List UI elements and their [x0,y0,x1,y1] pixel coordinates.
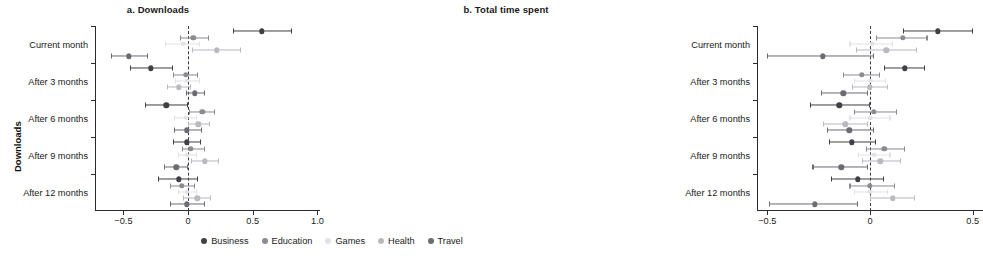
y-axis-category-label: After 12 months [23,188,88,198]
panel-total-time-spent: b. Total time spent −0.500.5Current mont… [332,0,664,263]
confidence-interval-cap [926,35,927,40]
point-estimate-dot [882,146,887,151]
confidence-interval-cap [849,41,850,46]
x-axis-tick-label: 0 [186,216,191,226]
confidence-interval-cap [904,146,905,151]
confidence-interval-cap [197,72,198,77]
confidence-interval-cap [194,183,195,188]
point-estimate-dot [841,91,846,96]
confidence-interval-cap [170,202,171,207]
confidence-interval-cap [889,152,890,157]
confidence-interval-cap [214,109,215,114]
legend-item-business[interactable]: Business [201,236,248,246]
confidence-interval-cap [291,29,292,34]
y-axis-tick [753,137,757,138]
point-estimate-dot [185,79,190,84]
x-axis-tick [973,211,974,215]
x-axis-tick-label: −0.5 [758,216,776,226]
x-axis-tick-label: −0.5 [114,216,132,226]
legend-item-travel[interactable]: Travel [428,236,463,246]
confidence-interval-cap [196,152,197,157]
point-estimate-dot [191,35,196,40]
point-estimate-dot [183,116,188,121]
confidence-interval-cap [887,85,888,90]
y-axis-tick [753,174,757,175]
y-axis-tick [753,100,757,101]
point-estimate-dot [884,47,889,52]
legend-item-education[interactable]: Education [262,236,313,246]
confidence-interval-cap [208,35,209,40]
confidence-interval-cap [209,122,210,127]
legend-swatch-icon [201,238,207,244]
point-estimate-dot [878,158,883,163]
point-estimate-dot [174,165,179,170]
panel-a-y-axis [95,26,96,211]
confidence-interval-cap [180,35,181,40]
x-axis-tick-label: 0.5 [966,216,979,226]
confidence-interval-cap [876,35,877,40]
y-axis-tick [91,137,95,138]
point-estimate-dot [148,66,153,71]
y-axis-category-label: After 6 months [28,114,88,124]
confidence-interval-cap [852,85,853,90]
legend-label: Education [272,236,313,246]
point-estimate-dot [200,109,205,114]
confidence-interval-cap [170,183,171,188]
confidence-interval-cap [218,159,219,164]
legend-label: Business [211,236,248,246]
confidence-interval-cap [173,140,174,145]
confidence-interval-cap [233,29,234,34]
confidence-interval-cap [178,152,179,157]
panel-a-x-axis [95,210,320,211]
point-estimate-dot [820,54,825,59]
legend-item-health[interactable]: Health [378,236,415,246]
point-estimate-dot [868,79,873,84]
confidence-interval-cap [196,115,197,120]
confidence-interval-cap [903,29,904,34]
point-estimate-dot [185,190,190,195]
confidence-interval-cap [831,177,832,182]
point-estimate-dot [867,84,872,89]
confidence-interval-cap [812,165,813,170]
panel-a-y-axis-title: Downloads [12,121,23,172]
point-estimate-dot [259,29,264,34]
point-estimate-dot [192,91,197,96]
legend-swatch-icon [428,238,434,244]
legend-item-games[interactable]: Games [325,236,365,246]
confidence-interval-cap [210,196,211,201]
confidence-interval-cap [854,189,855,194]
confidence-interval-cap [883,177,884,182]
confidence-interval-cap [164,165,165,170]
confidence-interval-cap [174,115,175,120]
confidence-interval-cap [916,48,917,53]
confidence-interval-cap [167,85,168,90]
confidence-interval-cap [197,177,198,182]
x-axis-tick [188,211,189,215]
y-axis-category-label: After 3 months [690,77,750,87]
confidence-interval-cap [849,115,850,120]
x-axis-tick [123,211,124,215]
confidence-interval-cap [867,122,868,127]
x-axis-tick-label: 0.5 [246,216,259,226]
confidence-interval-cap [201,128,202,133]
y-axis-tick [753,63,757,64]
confidence-interval-cap [190,85,191,90]
y-axis-category-label: After 6 months [690,114,750,124]
point-estimate-dot [867,183,872,188]
y-axis-tick [91,174,95,175]
point-estimate-dot [194,195,199,200]
legend-swatch-icon [325,238,331,244]
confidence-interval-cap [887,189,888,194]
confidence-interval-cap [873,54,874,59]
point-estimate-dot [214,47,219,52]
point-estimate-dot [196,121,201,126]
y-axis-tick [91,100,95,101]
confidence-interval-cap [165,41,166,46]
zero-reference-line [188,26,189,211]
panel-downloads: a. Downloads Downloads −0.500.51.0Curren… [0,0,332,263]
confidence-interval-cap [188,122,189,127]
confidence-interval-cap [972,29,973,34]
x-axis-tick-label: 0 [867,216,872,226]
point-estimate-dot [855,177,860,182]
point-estimate-dot [181,42,186,47]
